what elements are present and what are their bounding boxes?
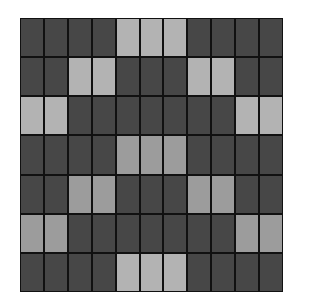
grid-cell-dark — [93, 19, 115, 56]
grid-cell-dark — [188, 254, 210, 291]
grid-cell-dark — [188, 97, 210, 134]
grid-cell-dark — [21, 176, 43, 213]
grid-cell-dark — [93, 136, 115, 173]
grid-cell-light — [212, 176, 234, 213]
grid-cell-dark — [260, 58, 282, 95]
grid-cell-dark — [117, 176, 139, 213]
grid-cell-dark — [117, 58, 139, 95]
grid-cell-dark — [21, 19, 43, 56]
grid-cell-dark — [236, 176, 258, 213]
grid-cell-dark — [260, 19, 282, 56]
grid-cell-dark — [236, 58, 258, 95]
grid-cell-dark — [21, 136, 43, 173]
grid-cell-dark — [188, 215, 210, 252]
grid-cell-dark — [69, 136, 91, 173]
grid-cell-light — [164, 19, 186, 56]
grid-cell-light — [260, 215, 282, 252]
grid-cell-light — [141, 19, 163, 56]
grid-cell-dark — [45, 254, 67, 291]
grid-cell-dark — [21, 254, 43, 291]
grid-cell-dark — [164, 176, 186, 213]
grid-cell-dark — [69, 97, 91, 134]
grid-cell-dark — [188, 136, 210, 173]
grid-cell-dark — [236, 136, 258, 173]
grid-cell-light — [236, 215, 258, 252]
grid-cell-light — [117, 136, 139, 173]
grid-cell-light — [236, 97, 258, 134]
grid-cell-dark — [93, 215, 115, 252]
grid-cell-dark — [236, 254, 258, 291]
grid-cell-light — [21, 215, 43, 252]
grid-cell-light — [164, 254, 186, 291]
tile-grid — [20, 18, 283, 292]
grid-cell-dark — [141, 97, 163, 134]
grid-cell-light — [93, 58, 115, 95]
grid-cell-light — [21, 97, 43, 134]
grid-cell-dark — [212, 97, 234, 134]
grid-cell-dark — [164, 215, 186, 252]
grid-cell-dark — [260, 176, 282, 213]
grid-cell-light — [141, 254, 163, 291]
grid-cell-light — [212, 58, 234, 95]
grid-cell-dark — [236, 19, 258, 56]
grid-cell-dark — [141, 176, 163, 213]
grid-cell-dark — [93, 97, 115, 134]
grid-cell-light — [93, 176, 115, 213]
grid-cell-dark — [45, 19, 67, 56]
grid-cell-dark — [93, 254, 115, 291]
grid-cell-light — [164, 136, 186, 173]
grid-cell-light — [45, 215, 67, 252]
grid-cell-dark — [212, 19, 234, 56]
grid-cell-dark — [69, 19, 91, 56]
grid-cell-dark — [260, 136, 282, 173]
grid-cell-dark — [117, 215, 139, 252]
grid-cell-dark — [69, 254, 91, 291]
grid-cell-dark — [212, 215, 234, 252]
grid-cell-dark — [164, 97, 186, 134]
grid-cell-dark — [45, 136, 67, 173]
grid-cell-dark — [45, 176, 67, 213]
grid-cell-light — [117, 19, 139, 56]
grid-cell-dark — [45, 58, 67, 95]
grid-cell-dark — [141, 215, 163, 252]
grid-cell-light — [260, 97, 282, 134]
grid-cell-dark — [21, 58, 43, 95]
grid-cell-light — [69, 58, 91, 95]
grid-cell-dark — [117, 97, 139, 134]
grid-cell-dark — [188, 19, 210, 56]
grid-cell-light — [188, 176, 210, 213]
grid-cell-light — [69, 176, 91, 213]
grid-cell-dark — [141, 58, 163, 95]
grid-cell-light — [117, 254, 139, 291]
grid-cell-dark — [212, 254, 234, 291]
grid-cell-dark — [69, 215, 91, 252]
grid-cell-light — [141, 136, 163, 173]
grid-cell-light — [45, 97, 67, 134]
grid-cell-dark — [212, 136, 234, 173]
grid-cell-dark — [164, 58, 186, 95]
grid-cell-dark — [260, 254, 282, 291]
grid-cell-light — [188, 58, 210, 95]
